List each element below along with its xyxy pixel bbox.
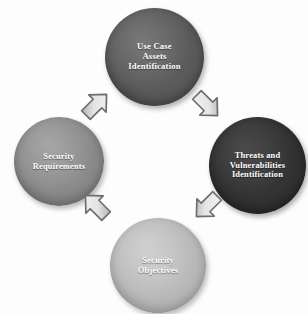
cycle-diagram: Use Case Assets Identification Threats a… <box>0 0 308 314</box>
node-label: Threats and Vulnerabilities Identificati… <box>224 151 291 180</box>
arrow-down-left-icon <box>190 189 224 223</box>
node-security-objectives[interactable]: Security Objectives <box>110 218 206 313</box>
node-label: Security Requirements <box>27 152 92 172</box>
arrow-down-right-icon <box>190 88 224 122</box>
node-label: Security Objectives <box>132 256 185 276</box>
node-label-line: Threats and <box>230 151 285 161</box>
node-label-line: Identification <box>230 170 285 180</box>
node-label-line: Security <box>33 152 86 162</box>
node-label-line: Requirements <box>33 162 86 172</box>
node-label-line: Security <box>138 256 179 266</box>
node-label: Use Case Assets Identification <box>122 42 186 72</box>
arrow-up-right-icon <box>79 88 113 122</box>
node-label-line: Objectives <box>138 266 179 276</box>
node-label-line: Vulnerabilities <box>230 161 285 171</box>
node-label-line: Identification <box>128 62 180 72</box>
arrow-up-left-icon <box>79 189 113 223</box>
